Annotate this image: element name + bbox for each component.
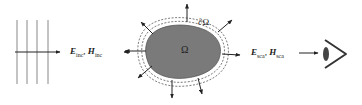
separator: ,	[265, 47, 267, 57]
scattered-arrow	[218, 20, 232, 32]
scattered-arrow	[198, 78, 202, 94]
boundary-label: ∂Ω	[198, 17, 209, 27]
h-symbol: H	[88, 46, 95, 56]
scattered-arrow	[141, 22, 153, 34]
domain-label: Ω	[181, 44, 188, 55]
separator: ,	[83, 46, 85, 56]
incident-field-label: Einc, Hinc	[70, 46, 102, 58]
eye-icon	[323, 40, 346, 68]
scattered-field-label: Esca, Hsca	[251, 47, 284, 59]
scattered-arrow	[222, 54, 240, 55]
h-subscript: sca	[276, 53, 284, 59]
h-subscript: inc	[95, 52, 102, 58]
e-subscript: sca	[257, 53, 265, 59]
